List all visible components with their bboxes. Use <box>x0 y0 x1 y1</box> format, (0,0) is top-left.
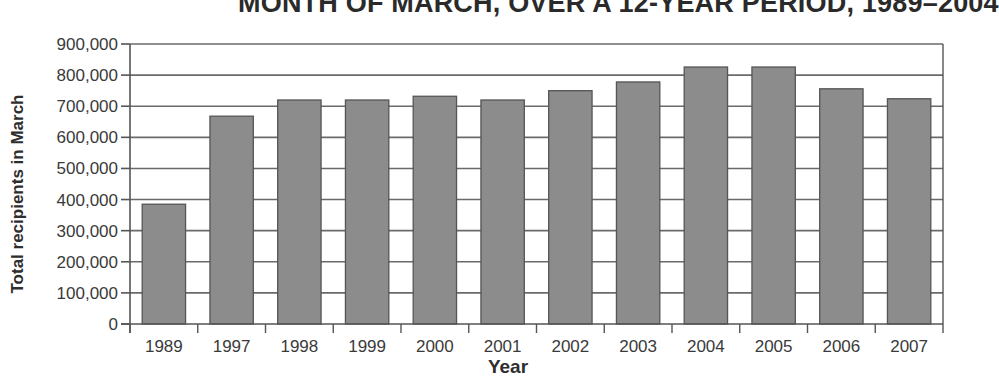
y-tick-label: 200,000 <box>57 253 118 272</box>
y-tick-label: 400,000 <box>57 191 118 210</box>
bar-2003 <box>616 82 659 324</box>
bar-1999 <box>345 100 388 324</box>
x-tick-label: 2003 <box>619 337 657 356</box>
y-tick-label: 900,000 <box>57 35 118 54</box>
x-tick-label: 2005 <box>755 337 793 356</box>
y-tick-label: 0 <box>109 315 118 334</box>
y-tick-label: 800,000 <box>57 66 118 85</box>
x-tick-label: 2004 <box>687 337 725 356</box>
x-tick-label: 1997 <box>213 337 251 356</box>
x-tick-label: 2001 <box>484 337 522 356</box>
bar-2000 <box>413 96 456 324</box>
x-tick-label: 2000 <box>416 337 454 356</box>
x-tick-label: 2007 <box>890 337 928 356</box>
x-tick-label: 2002 <box>551 337 589 356</box>
bar-1989 <box>142 204 185 324</box>
bar-1997 <box>210 116 253 324</box>
x-tick-label: 1989 <box>145 337 183 356</box>
x-tick-label: 2006 <box>822 337 860 356</box>
bar-2004 <box>684 67 727 324</box>
x-tick-label: 1999 <box>348 337 386 356</box>
y-tick-label: 500,000 <box>57 159 118 178</box>
bar-2007 <box>887 99 930 324</box>
y-tick-label: 300,000 <box>57 222 118 241</box>
x-tick-label: 1998 <box>280 337 318 356</box>
y-tick-label: 600,000 <box>57 128 118 147</box>
bar-2006 <box>820 89 863 324</box>
bar-2005 <box>752 67 795 324</box>
bar-2001 <box>481 100 524 324</box>
bar-2002 <box>549 91 592 324</box>
y-tick-label: 700,000 <box>57 97 118 116</box>
y-tick-label: 100,000 <box>57 284 118 303</box>
bar-1998 <box>278 100 321 324</box>
